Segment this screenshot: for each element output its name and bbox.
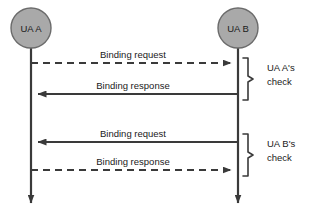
message-binding-response-1: Binding response (38, 80, 238, 94)
message-label-4: Binding response (96, 156, 169, 167)
participant-ua-b: UA B (218, 8, 258, 48)
group-ua-b-check: UA B's check (243, 134, 295, 176)
group-label-2-line2: check (267, 152, 292, 163)
curly-brace-icon-2 (243, 134, 253, 176)
group-ua-a-check: UA A's check (243, 58, 295, 100)
message-label-1: Binding request (100, 49, 166, 60)
group-label-2-line1: UA B's (267, 138, 295, 149)
sequence-diagram: Binding request Binding response Binding… (0, 0, 311, 219)
participant-label-ua-b: UA B (227, 23, 249, 34)
curly-brace-icon-1 (243, 58, 253, 100)
lifelines-group (31, 48, 238, 203)
message-binding-request-2: Binding request (38, 128, 238, 142)
message-label-3: Binding request (100, 128, 166, 139)
group-label-1-line2: check (267, 76, 292, 87)
participant-label-ua-a: UA A (20, 23, 42, 34)
message-binding-request-1: Binding request (31, 49, 231, 63)
group-label-1-line1: UA A's (267, 62, 295, 73)
message-binding-response-2: Binding response (31, 156, 231, 170)
message-label-2: Binding response (96, 80, 169, 91)
sequence-diagram-canvas: Binding request Binding response Binding… (0, 0, 311, 219)
participant-ua-a: UA A (11, 8, 51, 48)
